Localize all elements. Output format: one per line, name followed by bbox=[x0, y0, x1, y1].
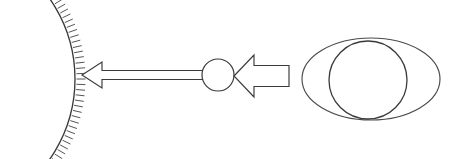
sphere-hatch-mark bbox=[67, 131, 75, 134]
sphere-hatch-mark bbox=[75, 57, 84, 58]
block-arrow-outline bbox=[234, 55, 289, 97]
large-hatched-sphere bbox=[1, 0, 86, 159]
sphere-hatch-mark bbox=[69, 29, 77, 32]
sphere-arc bbox=[1, 0, 75, 159]
small-sphere bbox=[202, 59, 234, 91]
sphere-hatch-mark bbox=[73, 110, 82, 112]
small-sphere-circle bbox=[202, 59, 234, 91]
sphere-hatch-mark bbox=[72, 40, 81, 42]
sphere-hatch-mark bbox=[67, 24, 75, 27]
sphere-hatch-mark bbox=[75, 100, 84, 101]
eye-shape bbox=[302, 38, 440, 120]
sphere-hatch-mark bbox=[76, 95, 85, 96]
sphere-hatch-mark bbox=[63, 140, 71, 144]
sphere-hatch-mark bbox=[74, 51, 83, 53]
line-diagram bbox=[0, 0, 451, 159]
sphere-hatch-mark bbox=[76, 68, 85, 69]
eye-iris-circle bbox=[329, 41, 407, 119]
block-ray-arrow bbox=[234, 55, 289, 97]
sphere-hatch-mark bbox=[58, 150, 66, 154]
sphere-hatch-mark bbox=[70, 121, 79, 124]
sphere-hatch-mark bbox=[72, 116, 81, 118]
sphere-hatch-marks bbox=[1, 0, 85, 159]
sphere-hatch-mark bbox=[60, 9, 68, 13]
sphere-hatch-mark bbox=[70, 35, 79, 38]
thin-ray-arrow bbox=[82, 62, 205, 88]
sphere-hatch-mark bbox=[74, 105, 83, 107]
sphere-hatch-mark bbox=[55, 154, 62, 159]
sphere-hatch-mark bbox=[65, 135, 73, 139]
thin-arrow-outline bbox=[82, 62, 205, 88]
sphere-hatch-mark bbox=[76, 90, 85, 91]
diagram-canvas bbox=[0, 0, 451, 159]
sphere-hatch-mark bbox=[73, 46, 82, 48]
sphere-hatch-mark bbox=[76, 62, 85, 63]
sphere-hatch-mark bbox=[58, 4, 66, 8]
sphere-hatch-mark bbox=[55, 0, 62, 4]
sphere-hatch-mark bbox=[60, 145, 68, 149]
eye-outer-ellipse bbox=[302, 38, 440, 120]
sphere-hatch-mark bbox=[65, 19, 73, 23]
sphere-hatch-mark bbox=[69, 126, 77, 129]
sphere-hatch-mark bbox=[63, 14, 71, 18]
